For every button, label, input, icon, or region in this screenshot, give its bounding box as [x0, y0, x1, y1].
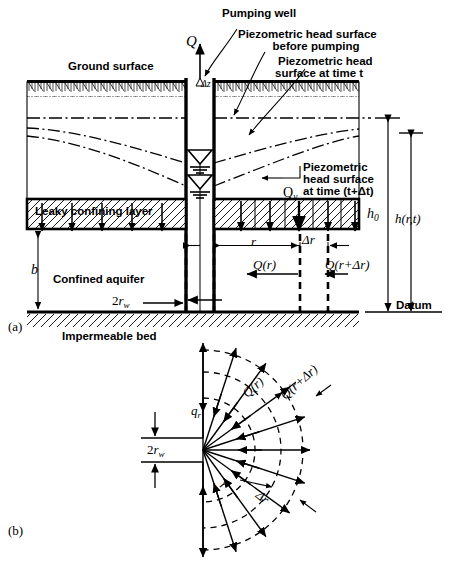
symbol-h0-base: h	[367, 206, 374, 221]
symbol-rw-sub-b: w	[159, 449, 165, 459]
callout-piezometric-time-t-dt-line2: head surface	[303, 173, 374, 185]
callout-piezometric-time-t-dt-line1: Piezometric	[303, 161, 368, 173]
plan-callout-leaders	[240, 382, 331, 512]
callout-piezometric-time-t-line2: surface at time t	[275, 67, 363, 79]
ground-surface-right	[214, 82, 359, 98]
symbol-Qv-subscript: v	[293, 192, 297, 202]
callout-pumping-well: Pumping well	[222, 7, 296, 19]
symbol-delta-r-a: Δr	[302, 233, 315, 247]
symbol-discharge-Q: Q	[186, 33, 197, 49]
callout-piezometric-before-pumping-line2: before pumping	[238, 40, 394, 52]
label-leaky-confining-layer: Leaky confining layer	[35, 205, 153, 217]
leaky-confining-layer-right	[214, 199, 359, 231]
figure-root: Pumping well Piezometric head surface be…	[0, 0, 451, 570]
symbol-well-diameter-b: 2rw	[147, 443, 165, 460]
symbol-rw-sub-a: w	[124, 300, 130, 310]
symbol-head-h-r-t: h(r,t)	[395, 212, 421, 226]
callout-piezometric-before-pumping-line1: Piezometric head surface	[238, 28, 377, 40]
symbol-well-diameter-a: 2rw	[112, 294, 130, 311]
symbol-head-initial-h0: h0	[367, 206, 379, 223]
symbol-qr-subscript: r	[198, 410, 202, 420]
symbol-aquifer-thickness-b: b	[31, 262, 38, 277]
symbol-specific-discharge-qr: qr	[191, 404, 201, 421]
symbol-flow-at-r-dr-a: Q(r+Δr)	[325, 258, 370, 272]
label-ground-surface: Ground surface	[68, 60, 154, 72]
symbol-h0-subscript: 0	[374, 213, 379, 223]
callout-piezometric-time-t-dt-line3: at time (t+Δt)	[303, 185, 374, 197]
symbol-flow-at-r-a: Q(r)	[253, 258, 276, 272]
symbol-vertical-leakage-Qv: Qv	[283, 185, 297, 202]
label-datum: Datum	[396, 299, 432, 311]
label-confined-aquifer: Confined aquifer	[53, 273, 144, 285]
callout-piezometric-time-t-line1: Piezometric head	[278, 55, 373, 67]
label-impermeable-bed: Impermeable bed	[62, 330, 157, 342]
ground-surface-left	[27, 82, 186, 98]
panel-label-b: (b)	[8, 524, 23, 538]
symbol-radius-r-a: r	[251, 235, 256, 249]
symbol-delta-z: Δz	[201, 79, 211, 90]
symbol-Qv-base: Q	[283, 185, 293, 200]
panel-label-a: (a)	[8, 320, 22, 334]
impermeable-bed	[27, 312, 359, 327]
